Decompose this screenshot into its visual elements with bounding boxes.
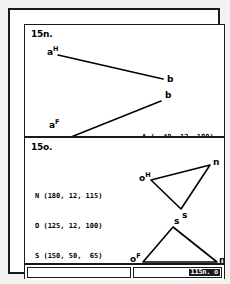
panel-15o: 15o. N (180, 12, 115) O (125, 12, 100) S… — [25, 138, 224, 265]
coordinate-list-15n: A ( 40, 12, 100) B (130, 50, 75) — [142, 112, 214, 138]
point-label-b-frontal-text: b — [165, 90, 171, 100]
point-label-s-horizontal-text: s — [182, 210, 187, 220]
point-label-a-frontal: aF — [49, 121, 60, 130]
point-label-o-horizontal: oH — [139, 174, 151, 183]
status-bar-right-cell[interactable]: 115n. o — [133, 267, 222, 278]
drawing-sheet: 15n. aH b b aF A ( 40, 12, 100) B (130, … — [24, 24, 225, 279]
status-bar: 115n. o — [25, 265, 224, 280]
coordinate-line-n: N (180, 12, 115) — [35, 191, 102, 201]
point-label-n-frontal: n — [219, 256, 224, 265]
point-label-a-horizontal-sup: H — [53, 45, 58, 53]
triangle-ons-horizontal — [151, 165, 210, 209]
point-label-s-frontal-text: s — [174, 216, 179, 226]
point-label-n-frontal-text: n — [219, 255, 224, 265]
point-label-o-frontal: oF — [130, 255, 141, 264]
panel-15n: 15n. aH b b aF A ( 40, 12, 100) B (130, … — [25, 25, 224, 138]
point-label-n-horizontal-text: n — [213, 157, 219, 167]
figure-page: 15n. aH b b aF A ( 40, 12, 100) B (130, … — [0, 0, 230, 284]
point-label-b-horizontal: b — [167, 75, 173, 84]
status-bar-tag: 115n. o — [189, 269, 220, 276]
outer-border: 15n. aH b b aF A ( 40, 12, 100) B (130, … — [8, 8, 220, 274]
point-label-a-horizontal: aH — [47, 48, 59, 57]
status-bar-left-cell[interactable] — [27, 267, 131, 278]
coordinate-line-s: S (150, 50, 65) — [35, 251, 102, 261]
point-label-s-frontal: s — [174, 217, 179, 226]
point-label-a-frontal-sup: F — [55, 118, 59, 126]
point-label-b-horizontal-text: b — [167, 74, 173, 84]
point-label-s-horizontal: s — [182, 211, 187, 220]
point-label-o-horizontal-sup: H — [145, 171, 150, 179]
point-label-b-frontal: b — [165, 91, 171, 100]
point-label-o-frontal-sup: F — [136, 252, 140, 260]
coordinate-list-15o: N (180, 12, 115) O (125, 12, 100) S (150… — [35, 171, 102, 265]
coordinate-line-o: O (125, 12, 100) — [35, 221, 102, 231]
point-label-n-horizontal: n — [213, 158, 219, 167]
segment-ab-horizontal — [58, 55, 163, 79]
triangle-ons-frontal — [143, 227, 217, 262]
